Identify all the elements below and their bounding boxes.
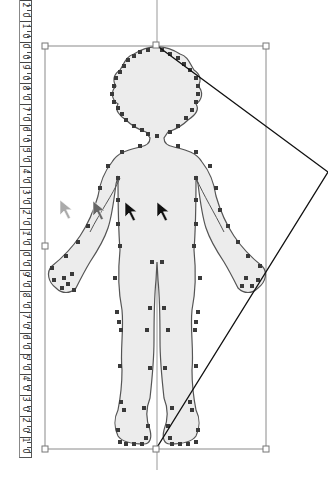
- handle-top-right: [263, 43, 269, 49]
- handle-top-center: [153, 42, 159, 48]
- handle-middle-left: [42, 243, 48, 249]
- handle-top-left: [42, 43, 48, 49]
- handle-bottom-center: [153, 446, 159, 452]
- handle-bottom-right: [263, 446, 269, 452]
- drawing-canvas[interactable]: [0, 0, 328, 483]
- handle-bottom-left: [42, 446, 48, 452]
- cursor-ghost-1-icon: [60, 200, 72, 219]
